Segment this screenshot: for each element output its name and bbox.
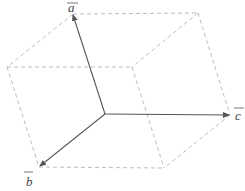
label-c-text: c: [235, 108, 241, 123]
edge-ac-to-abc: [132, 13, 198, 67]
edge-abc-to-bc: [132, 67, 164, 168]
edge-a-to-ac: [73, 13, 198, 14]
edge-ac-to-c: [198, 13, 230, 115]
vector-a-arrow: [73, 15, 105, 114]
label-a: a: [67, 0, 78, 15]
edge-b-to-bc: [39, 167, 164, 168]
vectors: [40, 15, 229, 166]
edge-c-to-bc: [164, 115, 230, 168]
vector-b-arrow: [40, 114, 105, 166]
label-b: b: [24, 172, 33, 189]
edge-ab-to-b: [7, 67, 39, 167]
parallelepiped-diagram: a c b: [0, 0, 245, 191]
dashed-edges: [7, 13, 230, 168]
label-a-text: a: [68, 0, 75, 15]
label-b-text: b: [26, 174, 33, 189]
vector-c-arrow: [105, 114, 229, 115]
label-c: c: [234, 108, 244, 123]
edge-a-to-ab: [7, 14, 73, 67]
